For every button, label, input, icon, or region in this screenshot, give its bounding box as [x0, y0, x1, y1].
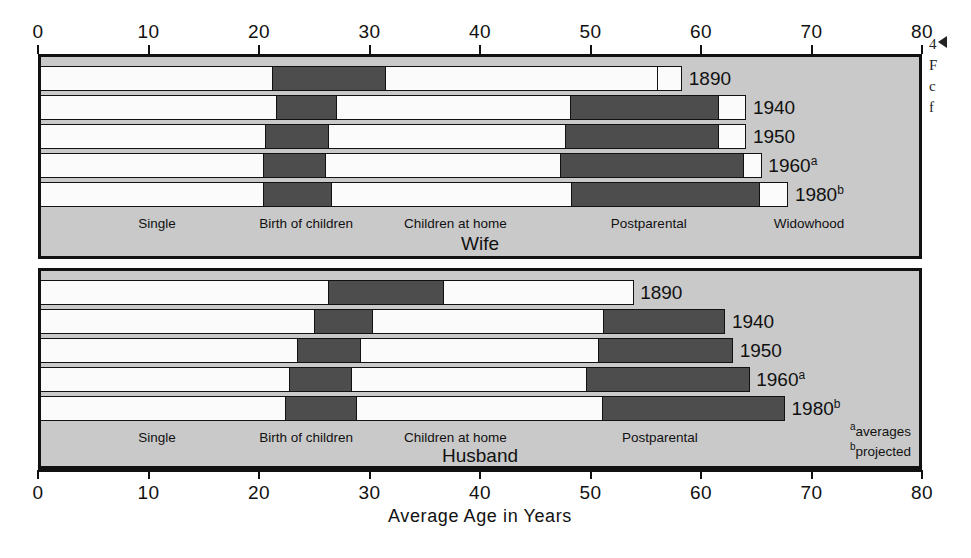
axis-tick — [479, 45, 481, 54]
x-axis-bottom: 01020304050607080 — [0, 466, 971, 500]
bar-segment-widowhood — [657, 66, 682, 91]
bar-segment-widowhood — [718, 124, 746, 149]
bar-row: 1950 — [41, 124, 919, 149]
axis-tick-label: 70 — [800, 22, 822, 41]
bar-series-label: 1960a — [768, 153, 817, 178]
axis-tick-label: 60 — [690, 22, 712, 41]
bar-segment-childhome — [360, 338, 601, 363]
axis-tick — [811, 470, 813, 479]
axis-tick — [700, 470, 702, 479]
bar-series-label: 1980b — [792, 396, 841, 421]
bar-series-label: 1950 — [753, 124, 795, 149]
axis-tick-label: 20 — [248, 22, 270, 41]
bar-segment-single — [40, 309, 317, 334]
axis-tick — [479, 470, 481, 479]
axis-tick-label: 0 — [32, 22, 43, 41]
axis-tick — [369, 45, 371, 54]
bar-series-label: 1890 — [689, 66, 731, 91]
margin-bleed-line: c — [929, 76, 969, 97]
bar-segment-birth — [297, 338, 363, 363]
axis-tick-label: 50 — [579, 22, 601, 41]
bar-segment-postparental — [598, 338, 734, 363]
bar-series-label: 1890 — [640, 280, 682, 305]
bar-segment-birth — [314, 309, 376, 334]
footnote: bprojected — [850, 439, 911, 459]
margin-bleed-line: F — [929, 55, 969, 76]
bar-series-label: 1940 — [732, 309, 774, 334]
bar-segment-postparental — [602, 396, 785, 421]
bar-series-label: 1980b — [795, 182, 844, 207]
axis-tick — [700, 45, 702, 54]
bar-segment-single — [40, 280, 331, 305]
bar-segment-childhome — [443, 280, 634, 305]
bar-segment-postparental — [565, 124, 720, 149]
axis-tick — [148, 470, 150, 479]
bar-segment-birth — [265, 124, 331, 149]
panel-husband: 1890194019501960a1980b SingleBirth of ch… — [38, 268, 922, 469]
bar-segment-single — [40, 367, 293, 392]
bar-row: 1890 — [41, 66, 919, 91]
axis-tick-label: 70 — [800, 483, 822, 502]
axis-tick-label: 60 — [690, 483, 712, 502]
bar-segment-single — [40, 338, 300, 363]
bar-row: 1890 — [41, 280, 919, 305]
bar-segment-single — [40, 95, 279, 120]
bar-segment-postparental — [603, 309, 725, 334]
bar-row: 1980b — [41, 396, 919, 421]
axis-tick — [811, 45, 813, 54]
bar-segment-widowhood — [743, 153, 761, 178]
axis-tick — [369, 470, 371, 479]
footnotes: aaveragesbprojected — [850, 419, 911, 458]
bar-row: 1960a — [41, 367, 919, 392]
stage-label: Birth of children — [259, 431, 353, 445]
stage-label: Widowhood — [774, 217, 845, 231]
bar-segment-childhome — [331, 182, 574, 207]
bar-segment-birth — [263, 153, 328, 178]
stage-label: Postparental — [622, 431, 698, 445]
bar-segment-postparental — [560, 153, 746, 178]
axis-tick — [590, 45, 592, 54]
bar-segment-birth — [263, 182, 335, 207]
axis-tick — [37, 45, 39, 54]
stage-label: Children at home — [404, 217, 507, 231]
bar-segment-single — [40, 153, 266, 178]
axis-tick — [258, 470, 260, 479]
axis-tick — [258, 45, 260, 54]
axis-tick-label: 30 — [358, 483, 380, 502]
x-axis-title: Average Age in Years — [38, 506, 922, 527]
bar-segment-birth — [328, 280, 446, 305]
bar-row: 1950 — [41, 338, 919, 363]
bar-segment-childhome — [336, 95, 573, 120]
bar-row: 1960a — [41, 153, 919, 178]
stage-label: Single — [138, 431, 176, 445]
axis-tick-label: 10 — [137, 22, 159, 41]
bar-segment-widowhood — [718, 95, 746, 120]
axis-tick-label: 10 — [137, 483, 159, 502]
bar-segment-widowhood — [759, 182, 789, 207]
footnote: aaverages — [850, 419, 911, 439]
bar-segment-childhome — [325, 153, 563, 178]
axis-tick — [590, 470, 592, 479]
bar-series-label: 1940 — [753, 95, 795, 120]
bar-segment-birth — [276, 95, 339, 120]
bar-row: 1980b — [41, 182, 919, 207]
bar-row: 1940 — [41, 309, 919, 334]
page-margin-bleed-text: 4Fcf — [929, 34, 969, 118]
bar-segment-postparental — [571, 182, 762, 207]
axis-tick — [37, 470, 39, 479]
axis-tick — [148, 45, 150, 54]
bar-series-label: 1950 — [740, 338, 782, 363]
axis-tick-label: 30 — [358, 22, 380, 41]
panel-wife: 1890194019501960a1980b SingleBirth of ch… — [38, 54, 922, 259]
bar-segment-childhome — [356, 396, 605, 421]
bar-segment-childhome — [385, 66, 660, 91]
bar-series-label: 1960a — [756, 367, 805, 392]
axis-tick-label: 40 — [469, 483, 491, 502]
bar-segment-birth — [272, 66, 389, 91]
figure-stages-of-family-life-cycle: 01020304050607080 01020304050607080 1890… — [0, 0, 971, 558]
bar-segment-postparental — [570, 95, 721, 120]
axis-tick-label: 20 — [248, 483, 270, 502]
axis-tick-label: 50 — [579, 483, 601, 502]
bar-segment-single — [40, 124, 268, 149]
stage-label: Single — [138, 217, 176, 231]
